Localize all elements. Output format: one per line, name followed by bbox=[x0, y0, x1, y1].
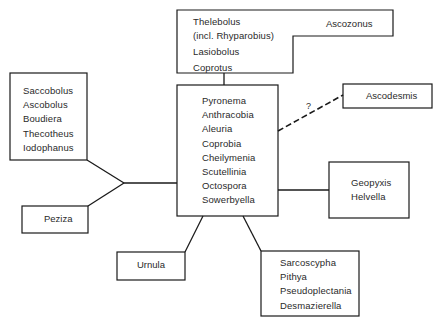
connector-urnula bbox=[185, 216, 203, 252]
genus-label: Coprobia bbox=[202, 137, 255, 151]
genus-label: Coprotus bbox=[193, 61, 274, 75]
left-upper-group-list: Saccobolus Ascobolus Boudiera Thecotheus… bbox=[23, 84, 74, 155]
genus-label-ascozonus: Ascozonus bbox=[326, 18, 372, 29]
genus-label: Cheilymenia bbox=[202, 151, 255, 165]
genus-label: Scutellinia bbox=[202, 165, 255, 179]
genus-label: Thelebolus bbox=[193, 15, 274, 29]
genus-label: Pseudoplectania bbox=[280, 284, 352, 298]
connector-left-lower bbox=[88, 183, 124, 206]
connector-left-upper bbox=[87, 160, 124, 183]
genus-label: Octospora bbox=[202, 179, 255, 193]
genus-label: Anthracobia bbox=[202, 108, 255, 122]
genus-label: Thecotheus bbox=[23, 127, 74, 141]
genus-label: Sowerbyella bbox=[202, 193, 255, 207]
genus-label-urnula: Urnula bbox=[137, 259, 165, 270]
genus-label: Sarcoscypha bbox=[280, 256, 352, 270]
genus-label: Boudiera bbox=[23, 112, 74, 126]
genus-label: Saccobolus bbox=[23, 84, 74, 98]
genus-label: Lasiobolus bbox=[193, 45, 274, 59]
bottom-right-group-list: Sarcoscypha Pithya Pseudoplectania Desma… bbox=[280, 256, 352, 313]
right-group-list: Geopyxis Helvella bbox=[351, 176, 391, 204]
genus-label: Desmazierella bbox=[280, 299, 352, 313]
genus-label: Ascobolus bbox=[23, 98, 74, 112]
connector-bottom-right bbox=[243, 216, 261, 251]
center-group-list: Pyronema Anthracobia Aleuria Coprobia Ch… bbox=[202, 94, 255, 208]
genus-label: Iodophanus bbox=[23, 141, 74, 155]
genus-label: Aleuria bbox=[202, 122, 255, 136]
top-group-left-list: Thelebolus (incl. Rhyparobius) Lasiobolu… bbox=[193, 15, 274, 75]
genus-label: Helvella bbox=[351, 190, 391, 204]
genus-label: (incl. Rhyparobius) bbox=[193, 29, 274, 43]
genus-label: Pyronema bbox=[202, 94, 255, 108]
genus-label-peziza: Peziza bbox=[44, 213, 73, 224]
genus-label: Geopyxis bbox=[351, 176, 391, 190]
genus-label-ascodesmis: Ascodesmis bbox=[366, 90, 417, 101]
uncertain-relation-marker: ? bbox=[306, 101, 311, 111]
genus-label: Pithya bbox=[280, 270, 352, 284]
